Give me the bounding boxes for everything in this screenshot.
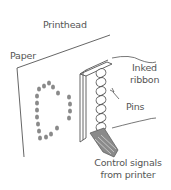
- label-paper: Paper: [10, 50, 36, 61]
- label-inked-ribbon-line1: Inked: [132, 62, 157, 73]
- label-pins: Pins: [126, 101, 144, 112]
- dot-matrix-character: [35, 80, 72, 140]
- pins: [95, 67, 107, 132]
- label-printhead: Printhead: [43, 19, 87, 30]
- label-control-signals-line2: from printer: [92, 169, 164, 180]
- label-inked-ribbon-line2: ribbon: [130, 74, 159, 85]
- control-cable: [90, 128, 118, 157]
- label-control-signals-line1: Control signals: [92, 157, 164, 168]
